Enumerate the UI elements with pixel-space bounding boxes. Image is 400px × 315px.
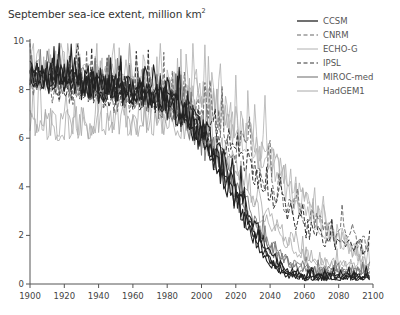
- legend: CCSMCNRMECHO-GIPSLMIROC-medHadGEM1: [292, 13, 392, 99]
- y-tick-label: 6: [19, 133, 24, 143]
- legend-label: HadGEM1: [323, 86, 365, 96]
- legend-label: IPSL: [323, 58, 341, 68]
- x-tick-label: 2080: [328, 291, 350, 301]
- x-tick-label: 2040: [259, 291, 281, 301]
- y-tick-label: 8: [19, 85, 24, 95]
- x-tick-label: 2020: [225, 291, 247, 301]
- legend-label: CNRM: [323, 30, 349, 40]
- x-tick-label: 2000: [191, 291, 213, 301]
- y-tick-label: 4: [19, 182, 24, 192]
- legend-label: ECHO-G: [323, 44, 358, 54]
- x-tick-label: 1920: [53, 291, 75, 301]
- legend-label: CCSM: [323, 16, 348, 26]
- y-tick-label: 0: [19, 279, 24, 289]
- sea-ice-line-chart: 0246810190019201940196019802000202020402…: [0, 0, 400, 315]
- x-tick-label: 1940: [88, 291, 110, 301]
- x-tick-label: 2060: [294, 291, 316, 301]
- series-line-hadgem1: [30, 78, 370, 273]
- y-tick-label: 2: [19, 230, 24, 240]
- x-tick-label: 1960: [122, 291, 144, 301]
- series-line-hadgem1: [30, 79, 370, 271]
- x-tick-label: 1980: [156, 291, 178, 301]
- y-tick-label: 10: [13, 36, 24, 46]
- x-tick-label: 2100: [362, 291, 384, 301]
- legend-label: MIROC-med: [323, 72, 373, 82]
- x-tick-label: 1900: [19, 291, 41, 301]
